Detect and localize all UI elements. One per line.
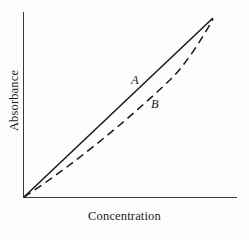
plot-area (0, 0, 249, 240)
y-axis-label-container: Absorbance (6, 0, 24, 200)
chart-figure: A B Concentration Absorbance (0, 0, 249, 240)
series-label-b: B (151, 98, 159, 111)
x-axis-label: Concentration (0, 209, 249, 224)
series-label-a: A (131, 74, 139, 87)
series-line-a (24, 18, 213, 197)
y-axis-label: Absorbance (8, 69, 23, 130)
